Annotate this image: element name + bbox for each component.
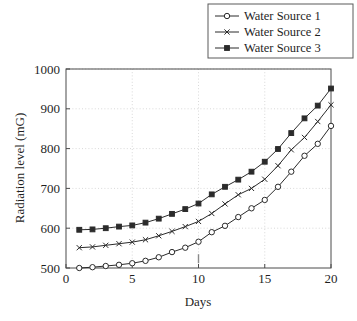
data-point-marker: [143, 258, 148, 263]
data-point-marker: [289, 131, 294, 136]
data-point-marker: [117, 224, 122, 229]
y-tick-label: 500: [41, 261, 61, 276]
y-tick-label: 900: [41, 101, 61, 116]
radiation-level-line-chart: 5006007008009001000 05101520 Days Radiat…: [0, 0, 357, 321]
data-point-marker: [289, 169, 294, 174]
chart-figure: 5006007008009001000 05101520 Days Radiat…: [0, 0, 357, 321]
x-tick-label: 5: [129, 271, 136, 286]
data-point-marker: [196, 239, 201, 244]
data-point-marker: [249, 169, 254, 174]
data-point-marker: [275, 184, 280, 189]
data-point-marker: [329, 86, 334, 91]
x-tick-label: 15: [258, 271, 271, 286]
legend-label: Water Source 2: [244, 25, 321, 39]
data-point-marker: [103, 263, 108, 268]
data-point-marker: [315, 141, 320, 146]
y-tick-label: 600: [41, 221, 61, 236]
x-tick-label: 10: [192, 271, 205, 286]
data-point-marker: [183, 245, 188, 250]
data-point-marker: [130, 223, 135, 228]
y-axis-title: Radiation level (mG): [12, 113, 27, 223]
data-point-marker: [196, 201, 201, 206]
y-tick-label: 800: [41, 141, 61, 156]
x-tick-label: 20: [325, 271, 338, 286]
data-point-marker: [90, 227, 95, 232]
data-point-marker: [262, 159, 267, 164]
y-tick-label: 700: [41, 181, 61, 196]
data-point-marker: [276, 147, 281, 152]
data-point-marker: [236, 214, 241, 219]
data-point-marker: [302, 116, 307, 121]
circle-marker-icon: [224, 13, 229, 18]
data-point-marker: [302, 153, 307, 158]
data-point-marker: [183, 207, 188, 212]
data-point-marker: [116, 262, 121, 267]
data-point-marker: [143, 220, 148, 225]
data-point-marker: [156, 216, 161, 221]
data-point-marker: [77, 265, 82, 270]
square-marker-icon: [225, 46, 230, 51]
data-point-marker: [169, 249, 174, 254]
legend-label: Water Source 3: [244, 41, 321, 55]
data-point-marker: [328, 123, 333, 128]
data-point-marker: [209, 192, 214, 197]
y-tick-label: 1000: [34, 62, 60, 77]
data-point-marker: [236, 177, 241, 182]
data-point-marker: [262, 197, 267, 202]
data-point-marker: [130, 261, 135, 266]
data-point-marker: [103, 226, 108, 231]
chart-legend[interactable]: Water Source 1Water Source 2Water Source…: [208, 4, 353, 58]
x-axis-title: Days: [185, 294, 212, 309]
data-point-marker: [156, 255, 161, 260]
x-tick-label: 0: [63, 271, 70, 286]
data-point-marker: [223, 184, 228, 189]
data-point-marker: [222, 223, 227, 228]
legend-label: Water Source 1: [244, 9, 321, 23]
data-point-marker: [315, 103, 320, 108]
data-point-marker: [77, 227, 82, 232]
data-point-marker: [209, 229, 214, 234]
data-point-marker: [90, 265, 95, 270]
data-point-marker: [249, 206, 254, 211]
data-point-marker: [170, 211, 175, 216]
